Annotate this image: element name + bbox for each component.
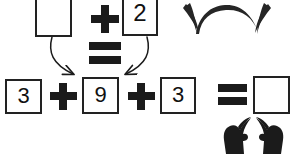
main-plus-first-icon: + [50,83,77,110]
middle-equals-icon: = [89,42,121,64]
decorative-arc-mark [183,3,271,34]
term-nine-box[interactable]: 9 [82,77,119,114]
top-two-value: 2 [133,1,146,25]
worksheet-canvas: Addition equation worksheet with missing… [0,0,293,154]
arrow-left-to-nine [51,37,73,74]
hand-left [224,117,251,154]
top-plus-icon: + [91,5,119,33]
main-equals-icon: = [218,84,247,105]
top-two-box[interactable]: 2 [122,0,158,36]
answer-box[interactable] [253,76,290,114]
term-three-second-value: 3 [172,84,184,106]
term-three-first-value: 3 [17,85,29,107]
hand-right [256,117,283,154]
decorative-hands-mark [224,117,284,154]
term-three-second-box[interactable]: 3 [160,77,196,114]
term-nine-value: 9 [94,84,106,106]
arrow-right-to-nine [126,37,148,74]
main-plus-second-icon: + [128,83,155,110]
term-three-first-box[interactable]: 3 [5,79,42,114]
top-blank-box[interactable] [35,0,72,37]
